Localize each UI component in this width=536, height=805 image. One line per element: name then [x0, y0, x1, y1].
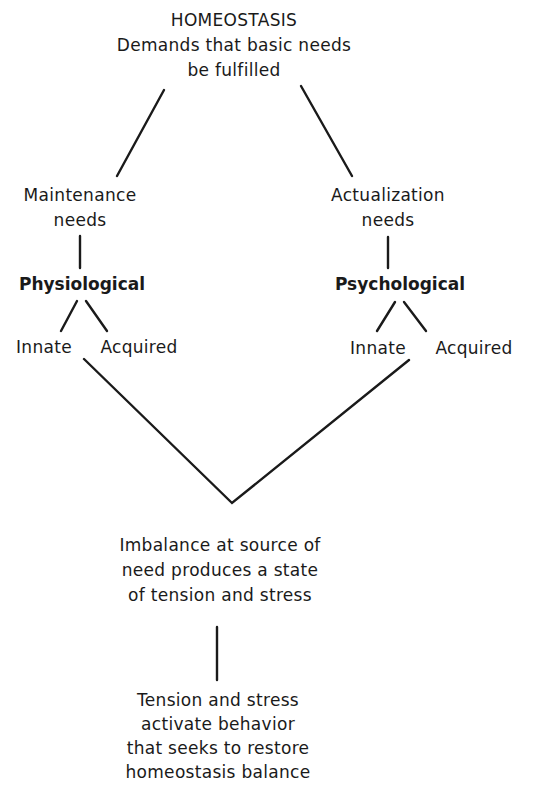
physiological-innate-node: Innate [12, 335, 76, 360]
outcome-line-2: activate behavior [110, 712, 326, 736]
homeostasis-diagram: HOMEOSTASIS Demands that basic needs be … [0, 0, 536, 805]
connector-root-to-actualization [301, 86, 352, 176]
root-description-line-1: Demands that basic needs [98, 33, 370, 58]
root-node: HOMEOSTASIS Demands that basic needs be … [98, 8, 370, 83]
physiological-node: Physiological [10, 272, 154, 297]
connector-physiological-to-acquired [86, 301, 107, 331]
connector-psychological-to-innate [377, 302, 395, 331]
imbalance-node: Imbalance at source of need produces a s… [100, 533, 340, 608]
connector-lines [0, 0, 536, 805]
imbalance-line-2: need produces a state [100, 558, 340, 583]
root-title: HOMEOSTASIS [98, 8, 370, 33]
connector-root-to-maintenance [117, 90, 164, 176]
maintenance-needs-node: Maintenance needs [10, 183, 150, 233]
maintenance-needs-label: needs [10, 208, 150, 233]
psychological-acquired-node: Acquired [430, 336, 518, 361]
outcome-node: Tension and stress activate behavior tha… [110, 688, 326, 784]
imbalance-line-3: of tension and stress [100, 583, 340, 608]
imbalance-line-1: Imbalance at source of [100, 533, 340, 558]
outcome-line-1: Tension and stress [110, 688, 326, 712]
physiological-acquired-node: Acquired [96, 335, 182, 360]
root-description-line-2: be fulfilled [98, 58, 370, 83]
psychological-node: Psychological [328, 272, 472, 297]
outcome-line-4: homeostasis balance [110, 760, 326, 784]
maintenance-label: Maintenance [10, 183, 150, 208]
actualization-needs-label: needs [318, 208, 458, 233]
connector-physiological-to-innate [61, 301, 77, 331]
psychological-innate-node: Innate [346, 336, 410, 361]
actualization-needs-node: Actualization needs [318, 183, 458, 233]
actualization-label: Actualization [318, 183, 458, 208]
connector-psychological-to-acquired [404, 302, 426, 331]
connector-needs-to-imbalance [84, 359, 409, 503]
outcome-line-3: that seeks to restore [110, 736, 326, 760]
